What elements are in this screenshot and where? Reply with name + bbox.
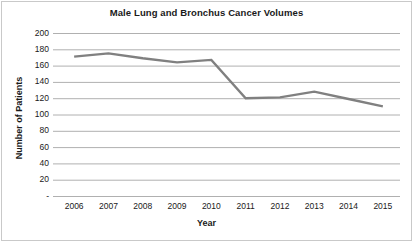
x-tick-label: 2010 <box>194 202 228 211</box>
x-tick-label: 2011 <box>229 202 263 211</box>
y-tick-label: 200 <box>15 29 49 38</box>
y-tick-label: 100 <box>15 110 49 119</box>
x-tick-label: 2014 <box>332 202 366 211</box>
y-tick-label: 180 <box>15 45 49 54</box>
x-tick-label: 2012 <box>263 202 297 211</box>
y-tick-label: - <box>15 192 49 201</box>
y-tick-label: 160 <box>15 61 49 70</box>
y-tick-label: 40 <box>15 159 49 168</box>
x-tick-label: 2013 <box>297 202 331 211</box>
x-tick-label: 2006 <box>57 202 91 211</box>
axis-ticks <box>53 34 57 197</box>
x-tick-label: 2008 <box>126 202 160 211</box>
chart-container: Male Lung and Bronchus Cancer Volumes Nu… <box>0 0 413 242</box>
y-tick-label: 80 <box>15 126 49 135</box>
y-tick-label: 120 <box>15 94 49 103</box>
y-tick-label: 60 <box>15 143 49 152</box>
x-tick-label: 2007 <box>91 202 125 211</box>
gridlines <box>57 34 400 197</box>
x-tick-label: 2009 <box>160 202 194 211</box>
x-tick-label: 2015 <box>366 202 400 211</box>
y-tick-label: 140 <box>15 77 49 86</box>
y-tick-label: 20 <box>15 175 49 184</box>
